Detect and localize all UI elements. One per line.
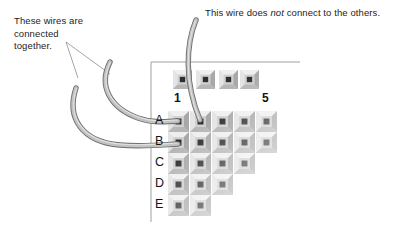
- row-e-sockets: [168, 195, 211, 216]
- row-b-sockets: [168, 132, 277, 153]
- socket-a3[interactable]: [212, 111, 233, 132]
- socket-d2[interactable]: [190, 174, 211, 195]
- row-label-c: C: [155, 155, 164, 169]
- bus-socket-2[interactable]: [196, 70, 215, 89]
- row-label-e: E: [155, 197, 163, 211]
- socket-c4[interactable]: [234, 153, 255, 174]
- socket-c1[interactable]: [168, 153, 189, 174]
- bus-socket-3[interactable]: [219, 70, 238, 89]
- socket-a4[interactable]: [234, 111, 255, 132]
- diagram-graphics: [0, 0, 406, 227]
- socket-b2[interactable]: [190, 132, 211, 153]
- column-label-5: 5: [262, 91, 269, 105]
- bus-socket-4[interactable]: [240, 70, 259, 89]
- socket-e1[interactable]: [168, 195, 189, 216]
- row-d-sockets: [168, 174, 233, 195]
- socket-b4[interactable]: [234, 132, 255, 153]
- socket-d1[interactable]: [168, 174, 189, 195]
- row-label-b: B: [155, 134, 163, 148]
- socket-c3[interactable]: [212, 153, 233, 174]
- socket-d3[interactable]: [212, 174, 233, 195]
- socket-c2[interactable]: [190, 153, 211, 174]
- socket-grid: [168, 70, 277, 216]
- socket-a5[interactable]: [256, 111, 277, 132]
- row-c-sockets: [168, 153, 255, 174]
- row-label-a: A: [155, 113, 163, 127]
- row-label-d: D: [155, 176, 164, 190]
- wire-to-a1[interactable]: [105, 62, 178, 122]
- socket-e2[interactable]: [190, 195, 211, 216]
- row-a-sockets: [168, 111, 277, 132]
- column-label-1: 1: [174, 91, 181, 105]
- socket-b3[interactable]: [212, 132, 233, 153]
- socket-b5[interactable]: [256, 132, 277, 153]
- diagram-canvas: These wires are connected together. This…: [0, 0, 406, 227]
